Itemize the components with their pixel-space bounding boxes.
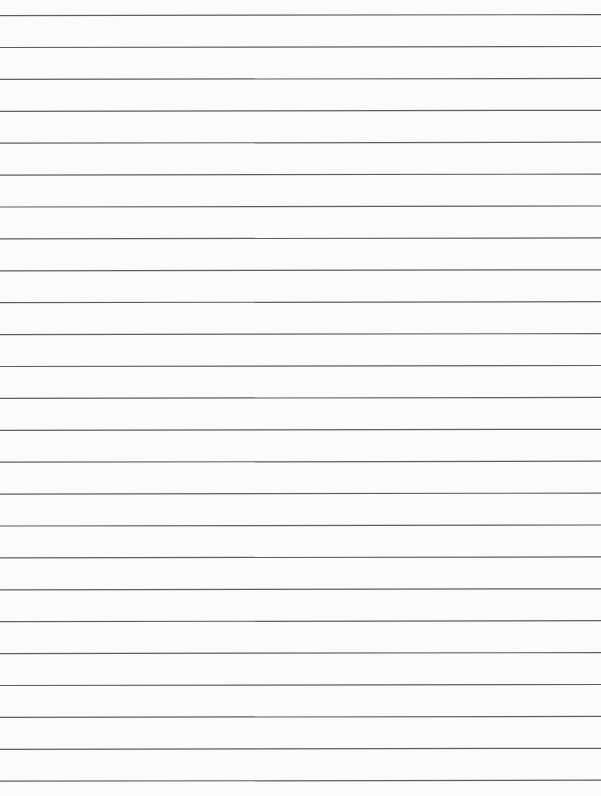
ruled-line [0,206,601,207]
ruled-line [0,621,601,622]
ruled-line [0,270,601,271]
ruled-line [0,397,601,398]
ruled-line [0,685,601,686]
ruled-line [0,429,601,430]
ruled-line [0,525,601,526]
ruled-line [0,238,601,239]
ruled-line [0,334,601,335]
ruled-line [0,748,601,749]
ruled-line [0,461,601,462]
ruled-line [0,589,601,590]
ruled-line [0,174,601,175]
ruled-line [0,302,601,303]
ruled-line [0,366,601,367]
ruled-line [0,493,601,494]
ruled-line [0,780,601,781]
ruled-line [0,78,601,79]
ruled-line [0,653,601,654]
ruled-line [0,110,601,111]
ruled-line [0,47,601,48]
ruled-lines [0,0,601,796]
ruled-line [0,142,601,143]
ruled-line [0,557,601,558]
ruled-line [0,716,601,717]
ruled-line [0,15,601,16]
lined-paper-sheet [0,0,601,796]
